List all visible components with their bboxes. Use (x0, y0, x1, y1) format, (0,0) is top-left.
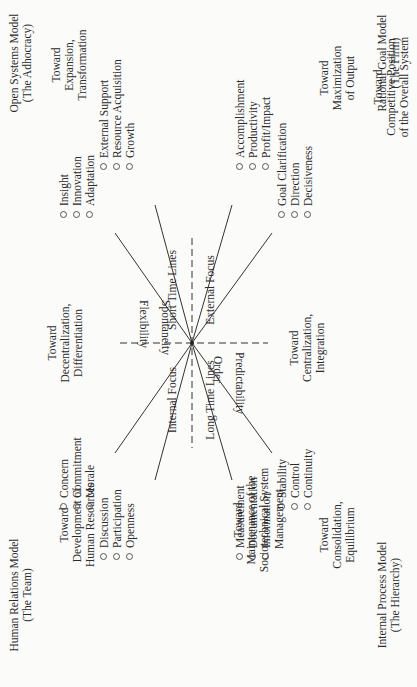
bullet-icon (73, 503, 80, 510)
bullet-icon (60, 211, 67, 218)
bullet-icon (249, 163, 256, 170)
axis-predictability: Predictability (234, 352, 246, 414)
bullet-icon (262, 163, 269, 170)
group-output: Accomplishment Productivity Profit/Impac… (234, 79, 273, 170)
model-human-relations: Human Relations Model (The Team) (8, 530, 34, 660)
bullet-icon (86, 211, 93, 218)
axis-internal-focus: Internal Focus (166, 360, 179, 440)
direction-competitive-position: Toward Competitive Position of the Overa… (372, 22, 411, 152)
bullet-icon (278, 211, 285, 218)
group-innovation: Insight Innovation Adaptation (58, 155, 97, 218)
bullet-icon (86, 503, 93, 510)
group-information: Measurement Documentation Information Ma… (234, 477, 286, 560)
bullet-icon (113, 163, 120, 170)
bullet-icon (262, 553, 269, 560)
group-goals: Goal Clarification Direction Decisivenes… (276, 123, 315, 218)
group-resources: External Support Resource Acquisition Gr… (98, 59, 137, 170)
model-internal-process: Internal Process Model (The Hierarchy) (376, 530, 402, 660)
group-participation: Discussion Participation Openness (98, 489, 137, 560)
direction-decentralization: Toward Decentralization, Differentiation (46, 288, 85, 398)
bullet-icon (126, 553, 133, 560)
direction-consolidation: Toward Consolidation, Equilibrium (318, 485, 357, 585)
bullet-icon (249, 553, 256, 560)
bullet-icon (60, 503, 67, 510)
bullet-icon (236, 163, 243, 170)
bullet-icon (291, 503, 298, 510)
direction-centralization: Toward Centralization, Integration (288, 298, 327, 398)
direction-maximization: Toward Maximization of Output (318, 28, 357, 128)
model-open-systems: Open Systems Model (The Adhocracy) (8, 8, 34, 118)
bullet-icon (304, 503, 311, 510)
bullet-icon (100, 163, 107, 170)
bullet-icon (126, 163, 133, 170)
bullet-icon (291, 211, 298, 218)
axis-order: Order (212, 356, 224, 383)
direction-expansion: Toward Expansion, Transformation (50, 15, 89, 115)
bullet-icon (100, 553, 107, 560)
bullet-icon (113, 553, 120, 560)
bullet-icon (236, 553, 243, 560)
axis-external-focus: External Focus (204, 250, 217, 330)
bullet-icon (73, 211, 80, 218)
axis-flexibility: Flexibility (138, 300, 150, 348)
group-morale: Concern Commitment Morale (58, 437, 97, 510)
competing-values-diagram: Open Systems Model (The Adhocracy) Ratio… (0, 0, 417, 687)
axis-spontaneity: Spontaneity (160, 300, 172, 355)
bullet-icon (304, 211, 311, 218)
